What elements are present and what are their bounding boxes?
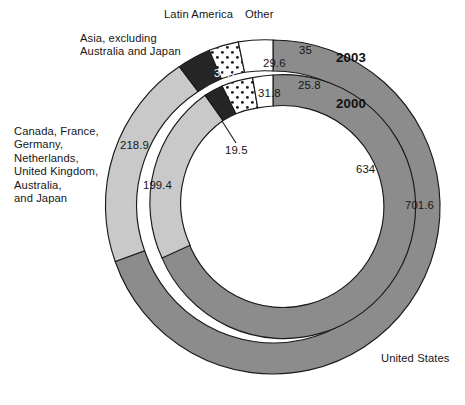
value-2003-latin-america: 29.6: [263, 57, 286, 69]
ring-year-2003: 2003: [336, 50, 366, 65]
leader-line-asia-2000: [222, 121, 236, 143]
value-2003-western-group: 218.9: [120, 139, 149, 151]
label-other: Other: [245, 8, 273, 21]
value-2000-united-states: 634: [356, 163, 375, 175]
chart-canvas: Asia, excluding Australia and Japan Lati…: [0, 0, 465, 405]
ring-2000: [150, 75, 416, 339]
value-2003-united-states: 701.6: [405, 199, 434, 211]
label-latin-america: Latin America: [164, 8, 233, 21]
value-2000-latin-america: 31.8: [258, 87, 281, 99]
ring-year-2000: 2000: [336, 96, 366, 111]
value-2003-asia: 31.7: [214, 67, 237, 79]
label-western-group: Canada, France, Germany, Netherlands, Un…: [14, 125, 99, 205]
value-2000-asia: 19.5: [225, 144, 248, 156]
label-asia: Asia, excluding Australia and Japan: [80, 32, 181, 59]
value-2000-western-group: 199.4: [143, 179, 172, 191]
label-united-states: United States: [381, 352, 449, 365]
value-2000-other: 25.8: [298, 79, 321, 91]
value-2003-other: 35: [299, 44, 312, 56]
